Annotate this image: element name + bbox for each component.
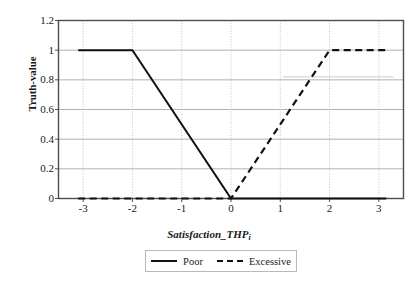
x-axis-tick-label: 0	[211, 203, 251, 214]
series-line-poor	[78, 50, 386, 198]
y-axis-tick-label: 0.6	[24, 104, 54, 115]
legend-swatch-solid-line-icon	[151, 256, 177, 266]
x-axis-tick-label: -3	[63, 203, 103, 214]
y-axis-tick-label: 0.4	[24, 134, 54, 145]
plot-area	[0, 0, 418, 284]
x-axis-title: Satisfaction_THPi	[0, 228, 418, 240]
chart-legend: PoorExcessive	[145, 250, 297, 272]
legend-label: Excessive	[249, 256, 291, 267]
x-axis-tick-label: -1	[162, 203, 202, 214]
y-axis-tick-label: 1.2	[24, 15, 54, 26]
x-axis-tick-label: 2	[310, 203, 350, 214]
x-axis-tick-label: -2	[112, 203, 152, 214]
x-axis-tick-label: 1	[260, 203, 300, 214]
x-axis-title-subscript: i	[249, 233, 251, 242]
y-axis-tick-label: 1	[24, 45, 54, 56]
y-axis-tick-label: 0.8	[24, 74, 54, 85]
y-axis-tick-label: 0.2	[24, 163, 54, 174]
legend-label: Poor	[183, 256, 203, 267]
legend-swatch-dashed-line-icon	[217, 256, 243, 266]
legend-item-excessive: Excessive	[217, 256, 291, 267]
x-axis-tick-labels: -3-2-10123	[0, 203, 418, 219]
fuzzy-membership-chart: Truth-value 00.20.40.60.811.2 -3-2-10123…	[0, 0, 418, 284]
y-axis-tick-labels: 00.20.40.60.811.2	[22, 0, 54, 284]
x-axis-title-text: Satisfaction_THP	[167, 228, 248, 240]
legend-item-poor: Poor	[151, 256, 203, 267]
series-line-excessive	[78, 50, 386, 198]
x-axis-tick-label: 3	[359, 203, 399, 214]
